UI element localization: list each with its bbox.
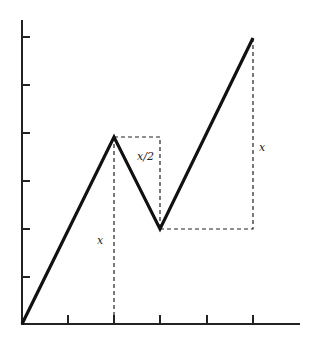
- label-drop: x/2: [137, 150, 154, 163]
- x-axis-ticks: [68, 315, 253, 324]
- label-second-rise: x: [259, 141, 266, 154]
- label-first-rise: x: [97, 234, 104, 247]
- zigzag-line: [22, 38, 253, 324]
- zigzag-diagram: x x/2 x: [0, 0, 314, 339]
- y-axis-ticks: [22, 37, 30, 277]
